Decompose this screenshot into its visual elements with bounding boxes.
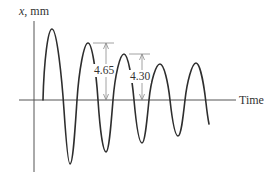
y-axis-label: x, mm: [19, 4, 49, 19]
damped-oscillation-diagram: [0, 0, 277, 179]
time-axis-label: Time: [239, 93, 264, 108]
dimension-label-4-65: 4.65: [93, 64, 115, 77]
oscillation-curve: [43, 29, 209, 164]
y-axis-unit: , mm: [24, 4, 49, 18]
dimension-label-4-30: 4.30: [129, 70, 151, 83]
